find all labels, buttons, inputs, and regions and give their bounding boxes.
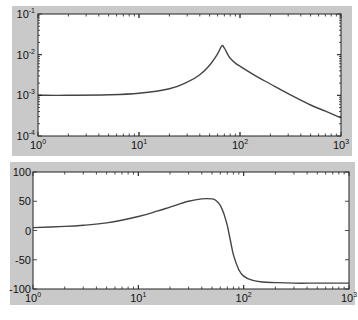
- magnitude-axes: 10010110210310-110-210-310-4: [17, 7, 350, 151]
- phase-plot-area: [33, 172, 349, 289]
- y-tick-label: 50: [19, 195, 31, 207]
- y-tick-label: -50: [15, 254, 31, 266]
- y-tick-label: -100: [9, 283, 31, 295]
- phase-axes: 100101102103100500-50-100: [9, 166, 357, 304]
- y-tick-label: 0: [25, 225, 31, 237]
- bode-plot-figure: 10010110210310-110-210-310-4 10010110210…: [0, 0, 358, 320]
- magnitude-plot-area: [38, 14, 341, 136]
- y-tick-label: 100: [13, 166, 31, 178]
